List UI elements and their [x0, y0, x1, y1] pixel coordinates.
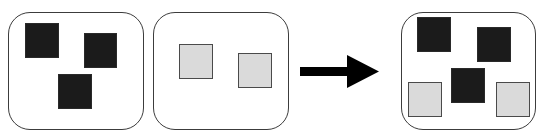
right-arrow-icon	[0, 0, 544, 139]
arrow-shaft	[300, 67, 349, 76]
arrow-head	[347, 55, 379, 88]
